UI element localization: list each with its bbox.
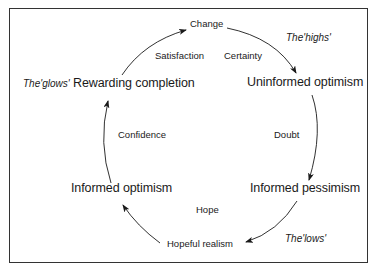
stage-informed-optimism: Informed optimism: [71, 182, 172, 195]
annotation-highs: The'highs': [286, 33, 331, 43]
emotion-certainty: Certainty: [224, 51, 262, 61]
emotion-doubt: Doubt: [274, 130, 299, 140]
stage-uninformed-optimism: Uninformed optimism: [247, 76, 363, 89]
stage-hopeful-realism: Hopeful realism: [167, 239, 233, 249]
arrow-uninformed-to-pessimism: [309, 95, 317, 180]
emotion-hope: Hope: [196, 205, 219, 215]
emotion-satisfaction: Satisfaction: [155, 51, 204, 61]
arrow-hopeful-to-informed: [123, 205, 160, 243]
emotion-confidence: Confidence: [118, 130, 166, 140]
annotation-lows: The'lows': [285, 234, 326, 244]
stage-change: Change: [190, 19, 223, 29]
arrow-informed-to-rewarding: [104, 101, 111, 183]
stage-informed-pessimism: Informed pessimism: [250, 182, 360, 195]
annotation-glows: The'glows': [23, 79, 70, 89]
stage-rewarding-completion: Rewarding completion: [73, 77, 195, 90]
